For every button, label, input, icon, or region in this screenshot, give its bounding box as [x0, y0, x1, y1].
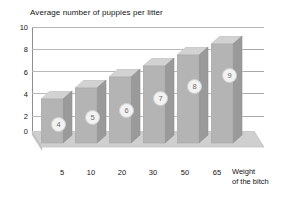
data-point-label: 7	[153, 91, 168, 106]
x-axis-title-line1: Weight	[232, 167, 269, 177]
data-point-label: 9	[222, 68, 237, 83]
x-tick-label: 50	[175, 168, 195, 177]
bar-item[interactable]: 6	[109, 69, 131, 139]
bar-item[interactable]: 5	[75, 80, 97, 139]
data-point-label: 8	[187, 79, 202, 94]
bar-shape	[211, 36, 245, 147]
data-point-label: 5	[85, 110, 100, 125]
bar-shape	[177, 47, 211, 147]
x-axis-title: Weight of the bitch	[232, 167, 269, 187]
data-point-label: 6	[119, 103, 134, 118]
bar-item[interactable]: 8	[177, 47, 199, 139]
bar-item[interactable]: 7	[143, 58, 165, 139]
x-tick-label: 30	[143, 168, 163, 177]
x-tick-label: 5	[52, 168, 72, 177]
chart-container: Average number of puppies per litter 10 …	[0, 0, 293, 201]
bar-item[interactable]: 9	[211, 36, 233, 139]
x-tick-label: 10	[81, 168, 101, 177]
data-point-label: 4	[51, 117, 66, 132]
x-axis-title-line2: of the bitch	[232, 177, 269, 187]
x-tick-label: 65	[207, 168, 227, 177]
bar-item[interactable]: 4	[41, 91, 63, 139]
x-tick-label: 20	[112, 168, 132, 177]
